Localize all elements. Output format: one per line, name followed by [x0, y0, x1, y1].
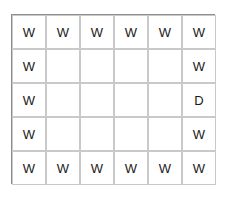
grid-cell-r1-c1[interactable]: [46, 49, 80, 83]
cell-label: W: [23, 26, 35, 39]
grid-cell-r0-c0[interactable]: W: [12, 15, 46, 49]
grid-cell-r1-c5[interactable]: W: [182, 49, 216, 83]
grid-cell-r2-c0[interactable]: W: [12, 83, 46, 117]
grid-cell-r3-c3[interactable]: [114, 117, 148, 151]
grid-cell-layer: WWWWWWWWWDWWWWWWWW: [12, 15, 216, 185]
grid-cell-r4-c4[interactable]: W: [148, 151, 182, 185]
grid-cell-r2-c1[interactable]: [46, 83, 80, 117]
grid-cell-r4-c5[interactable]: W: [182, 151, 216, 185]
grid-cell-r4-c0[interactable]: W: [12, 151, 46, 185]
grid-cell-r3-c2[interactable]: [80, 117, 114, 151]
cell-label: W: [23, 162, 35, 175]
grid-cell-r3-c1[interactable]: [46, 117, 80, 151]
cell-label: W: [125, 162, 137, 175]
cell-label: D: [194, 94, 203, 107]
grid-cell-r0-c3[interactable]: W: [114, 15, 148, 49]
grid-cell-r4-c2[interactable]: W: [80, 151, 114, 185]
cell-label: W: [159, 26, 171, 39]
cell-label: W: [159, 162, 171, 175]
cell-label: W: [193, 128, 205, 141]
cell-label: W: [91, 162, 103, 175]
grid-cell-r0-c5[interactable]: W: [182, 15, 216, 49]
cell-label: W: [91, 26, 103, 39]
cell-label: W: [193, 26, 205, 39]
grid-cell-r2-c4[interactable]: [148, 83, 182, 117]
grid-cell-r2-c5[interactable]: D: [182, 83, 216, 117]
cell-label: W: [23, 60, 35, 73]
grid-cell-r2-c3[interactable]: [114, 83, 148, 117]
cell-label: W: [57, 162, 69, 175]
cell-label: W: [125, 26, 137, 39]
grid-cell-r1-c2[interactable]: [80, 49, 114, 83]
grid-cell-r3-c4[interactable]: [148, 117, 182, 151]
cell-label: W: [23, 94, 35, 107]
grid-cell-r1-c3[interactable]: [114, 49, 148, 83]
figure-canvas: WWWWWWWWWDWWWWWWWW: [0, 0, 227, 198]
grid-cell-r0-c1[interactable]: W: [46, 15, 80, 49]
grid-cell-r4-c3[interactable]: W: [114, 151, 148, 185]
cell-label: W: [193, 60, 205, 73]
cell-label: W: [57, 26, 69, 39]
grid-frame: WWWWWWWWWDWWWWWWWW: [11, 14, 215, 184]
grid-cell-r0-c2[interactable]: W: [80, 15, 114, 49]
cell-label: W: [193, 162, 205, 175]
grid-cell-r3-c0[interactable]: W: [12, 117, 46, 151]
cell-label: W: [23, 128, 35, 141]
grid-cell-r3-c5[interactable]: W: [182, 117, 216, 151]
grid-cell-r1-c4[interactable]: [148, 49, 182, 83]
grid-cell-r2-c2[interactable]: [80, 83, 114, 117]
grid-cell-r4-c1[interactable]: W: [46, 151, 80, 185]
grid-cell-r0-c4[interactable]: W: [148, 15, 182, 49]
grid-cell-r1-c0[interactable]: W: [12, 49, 46, 83]
